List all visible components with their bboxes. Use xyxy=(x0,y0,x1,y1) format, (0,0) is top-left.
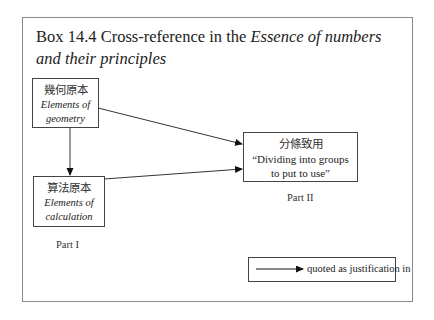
node-en-label: to put to use” xyxy=(244,166,357,180)
part-1-label: Part I xyxy=(56,239,79,250)
node-zh-label: 算法原本 xyxy=(34,181,104,196)
legend-box: quoted as justification in xyxy=(248,257,396,282)
node-dividing-into-groups: 分條致用 “Dividing into groups to put to use… xyxy=(243,132,358,182)
arrow-calculation-to-dividing xyxy=(104,169,242,179)
node-en-label: calculation xyxy=(34,210,104,224)
node-en-label: Elements of xyxy=(33,98,98,112)
node-en-label: geometry xyxy=(33,112,98,126)
node-zh-label: 分條致用 xyxy=(244,137,357,152)
legend-label: quoted as justification in xyxy=(307,263,411,274)
part-2-label: Part II xyxy=(287,192,314,203)
node-zh-label: 幾何原本 xyxy=(33,83,98,98)
node-elements-of-calculation: 算法原本 Elements of calculation xyxy=(33,176,105,227)
node-en-label: Elements of xyxy=(34,196,104,210)
arrow-geometry-to-dividing xyxy=(98,108,242,144)
node-elements-of-geometry: 幾何原本 Elements of geometry xyxy=(32,78,99,128)
node-en-label: “Dividing into groups xyxy=(244,152,357,166)
